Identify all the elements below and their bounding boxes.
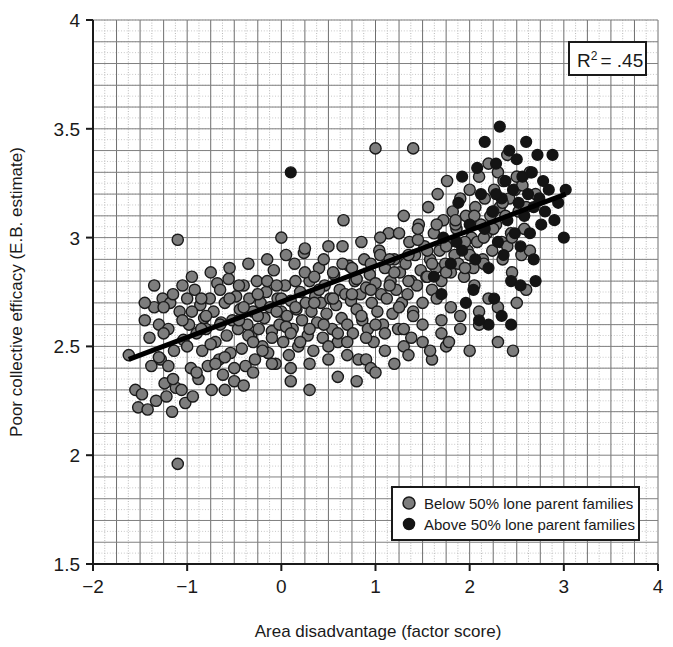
- data-point: [375, 232, 386, 243]
- data-point: [328, 293, 339, 304]
- data-point: [217, 369, 228, 380]
- data-point: [523, 189, 534, 200]
- data-point: [342, 336, 353, 347]
- y-tick-label: 1.5: [54, 554, 80, 575]
- data-point: [271, 306, 282, 317]
- r-squared-annotation: R2= .45: [569, 42, 646, 75]
- data-point: [498, 250, 509, 261]
- data-point: [476, 189, 487, 200]
- data-point: [549, 215, 560, 226]
- data-point: [508, 184, 519, 195]
- data-point: [285, 328, 296, 339]
- legend-marker-above-50: [404, 519, 415, 530]
- data-point: [206, 384, 217, 395]
- data-point: [342, 350, 353, 361]
- data-point: [200, 310, 211, 321]
- figure-background: [0, 0, 673, 647]
- data-point: [215, 284, 226, 295]
- data-point: [252, 289, 263, 300]
- data-point: [332, 328, 343, 339]
- data-point: [149, 280, 160, 291]
- data-point: [530, 276, 541, 287]
- data-point: [262, 254, 273, 265]
- data-point: [167, 373, 178, 384]
- data-point: [379, 328, 390, 339]
- data-point: [247, 336, 258, 347]
- data-point: [393, 302, 404, 313]
- legend-label-below-50: Below 50% lone parent families: [424, 495, 633, 512]
- data-point: [168, 345, 179, 356]
- data-point: [186, 306, 197, 317]
- data-point: [455, 310, 466, 321]
- data-point: [506, 319, 517, 330]
- data-point: [412, 223, 423, 234]
- data-point: [238, 302, 249, 313]
- data-point: [328, 267, 339, 278]
- data-point: [425, 345, 436, 356]
- data-point: [321, 308, 332, 319]
- data-point: [182, 341, 193, 352]
- data-point: [144, 332, 155, 343]
- r-squared-exponent: 2: [591, 49, 598, 63]
- data-point: [224, 293, 235, 304]
- data-point: [370, 143, 381, 154]
- data-point: [403, 276, 414, 287]
- data-point: [236, 343, 247, 354]
- data-point: [304, 384, 315, 395]
- data-point: [417, 297, 428, 308]
- data-point: [436, 289, 447, 300]
- scatter-plot-figure: −2−101234 1.522.533.54 Area disadvantage…: [0, 0, 673, 647]
- data-point: [547, 150, 558, 161]
- data-point: [338, 215, 349, 226]
- data-point: [459, 262, 470, 273]
- data-point: [289, 258, 300, 269]
- data-point: [491, 158, 502, 169]
- data-point: [323, 354, 334, 365]
- data-point: [153, 352, 164, 363]
- data-point: [177, 315, 188, 326]
- data-point: [351, 376, 362, 387]
- data-point: [511, 297, 522, 308]
- data-point: [489, 293, 500, 304]
- data-point: [177, 280, 188, 291]
- chart-canvas: −2−101234 1.522.533.54 Area disadvantage…: [0, 0, 673, 647]
- data-point: [276, 232, 287, 243]
- data-point: [365, 284, 376, 295]
- x-tick-label: 3: [559, 576, 570, 597]
- data-point: [521, 136, 532, 147]
- x-axis-title: Area disadvantage (factor score): [255, 622, 502, 641]
- data-point: [219, 384, 230, 395]
- data-point: [445, 258, 456, 269]
- data-point: [408, 143, 419, 154]
- data-point: [515, 241, 526, 252]
- r-squared-label: R2= .45: [577, 49, 643, 71]
- x-tick-label: −2: [82, 576, 104, 597]
- data-point: [474, 315, 485, 326]
- data-point: [309, 271, 320, 282]
- data-point: [323, 241, 334, 252]
- data-point: [223, 273, 234, 284]
- data-point: [161, 391, 172, 402]
- data-point: [356, 310, 367, 321]
- data-point: [428, 271, 439, 282]
- data-point: [167, 406, 178, 417]
- data-point: [167, 289, 178, 300]
- data-point: [285, 376, 296, 387]
- data-point: [285, 363, 296, 374]
- y-tick-label: 3.5: [54, 119, 80, 140]
- data-point: [509, 228, 520, 239]
- data-point: [472, 163, 483, 174]
- data-point: [172, 458, 183, 469]
- data-point: [158, 328, 169, 339]
- data-point: [412, 234, 423, 245]
- data-point: [205, 267, 216, 278]
- data-point: [487, 206, 498, 217]
- x-tick-label: −1: [176, 576, 198, 597]
- data-point: [389, 358, 400, 369]
- data-point: [318, 319, 329, 330]
- data-point: [464, 184, 475, 195]
- x-tick-label: 0: [276, 576, 287, 597]
- data-point: [224, 262, 235, 273]
- data-point: [356, 236, 367, 247]
- data-point: [453, 197, 464, 208]
